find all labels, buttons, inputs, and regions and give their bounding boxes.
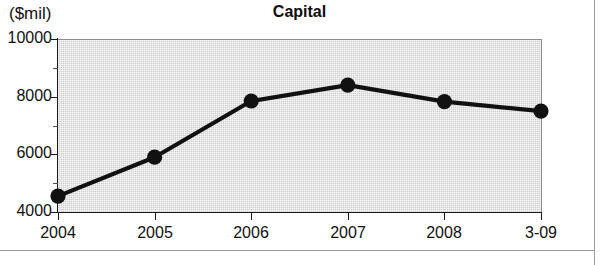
- data-point-marker: [147, 150, 162, 165]
- data-point-marker: [50, 189, 65, 204]
- data-point-marker: [244, 93, 259, 108]
- chart-figure: ($mil) Capital 10000800060004000 2004200…: [0, 0, 603, 265]
- data-point-marker: [437, 94, 452, 109]
- series-line-capital: [58, 85, 541, 196]
- series-markers-capital: [50, 78, 548, 204]
- data-point-marker: [340, 78, 355, 93]
- data-series-layer: [0, 0, 603, 265]
- data-point-marker: [533, 104, 548, 119]
